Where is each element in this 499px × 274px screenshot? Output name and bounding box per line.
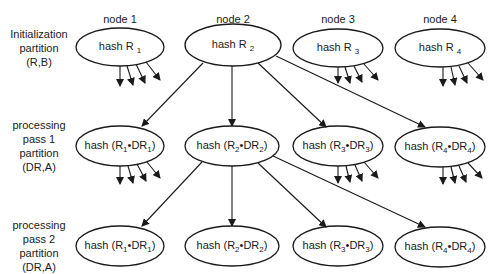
row-label-line: (R,B) [0,55,78,69]
row-label-line: processing [0,218,78,232]
row-label-pass1: processing pass 1 partition (DR,A) [0,118,78,174]
hash-label-row1-node3: hash R 3 [293,41,383,56]
row-label-line: processing [0,118,78,132]
node-header-2: node 2 [193,13,273,25]
hash-label-row1-node2: hash R 2 [185,38,281,53]
hash-label-row3-node3: hash (R3•DR3) [293,239,383,254]
row-label-pass2: processing pass 2 partition (DR,A) [0,218,78,274]
hash-label-row3-node4: hash (R4•DR4) [395,240,485,255]
hash-label-row1-node4: hash R 4 [395,41,485,56]
node-header-1: node 1 [80,13,160,25]
row-label-line: partition [0,41,78,55]
hash-label-row2-node1: hash (R1•DR1) [76,139,164,154]
row-label-line: partition [0,146,78,160]
hash-label-row1-node1: hash R 1 [76,40,164,55]
row-label-line: (DR,A) [0,260,78,274]
row-label-line: partition [0,246,78,260]
row-label-line: pass 1 [0,132,78,146]
node-header-4: node 4 [400,13,480,25]
hash-label-row3-node1: hash (R1•DR1) [76,239,164,254]
row-label-line: Initialization [0,27,78,41]
hash-label-row2-node3: hash (R3•DR3) [293,139,383,154]
hash-label-row2-node2: hash (R2•DR2) [185,139,279,154]
row-label-initialization: Initialization partition (R,B) [0,27,78,69]
hash-label-row2-node4: hash (R4•DR4) [395,140,485,155]
node-header-3: node 3 [298,13,378,25]
row-label-line: (DR,A) [0,160,78,174]
hash-label-row3-node2: hash (R2•DR2) [185,239,279,254]
row-label-line: pass 2 [0,232,78,246]
